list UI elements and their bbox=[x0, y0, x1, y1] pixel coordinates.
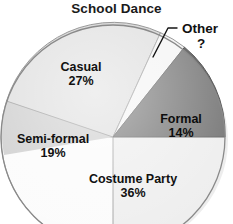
pie-chart-figure: School Dance bbox=[0, 0, 233, 224]
pie-label-formal-name: Formal bbox=[146, 113, 216, 127]
pie-label-other: Other ? bbox=[182, 22, 232, 51]
pie-label-casual-name: Casual bbox=[45, 61, 117, 75]
pie-label-semi-formal-value: 19% bbox=[1, 147, 105, 161]
pie-label-casual-value: 27% bbox=[45, 75, 117, 89]
pie-label-other-value: ? bbox=[182, 37, 220, 52]
pie-label-formal-value: 14% bbox=[146, 127, 216, 141]
pie-label-formal: Formal 14% bbox=[146, 113, 216, 140]
pie-label-costume-party-value: 36% bbox=[73, 187, 193, 201]
pie-label-casual: Casual 27% bbox=[45, 61, 117, 88]
pie-label-semi-formal-name: Semi-formal bbox=[1, 133, 105, 147]
pie-label-costume-party-name: Costume Party bbox=[73, 173, 193, 187]
pie-label-semi-formal: Semi-formal 19% bbox=[1, 133, 105, 160]
pie-label-other-name: Other bbox=[182, 22, 232, 37]
pie-label-costume-party: Costume Party 36% bbox=[73, 173, 193, 200]
